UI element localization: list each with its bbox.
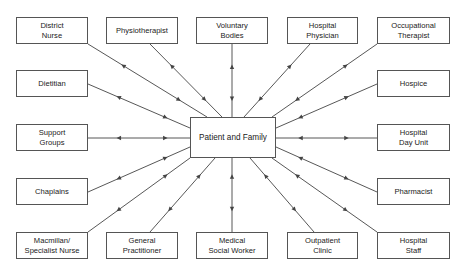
connector-hospice [276,84,377,128]
arrowhead-to-center-occupational-therapist [295,97,300,101]
connector-district-nurse [88,44,207,117]
node-physiotherapist: Physiotherapist [106,17,178,44]
care-network-diagram: Patient and Family District Nurse Physio… [0,0,461,273]
node-voluntary-bodies: Voluntary Bodies [196,17,268,44]
node-chaplains: Chaplains [16,178,88,205]
arrowhead-to-support-groups [117,136,122,140]
arrowhead-to-hospital-day-unit [344,136,349,140]
connector-pharmacist [276,147,377,192]
connector-general-practitioner [150,158,215,232]
arrowhead-to-center-support-groups [163,136,168,140]
arrowhead-to-hospital-staff [343,207,348,211]
connector-dietitian [88,84,190,128]
arrowhead-to-medical-social-worker [230,207,234,212]
connector-physiotherapist [150,44,222,117]
arrowhead-to-center-hospital-staff [295,174,300,178]
node-dietitian: Dietitian [16,70,88,97]
node-pharmacist: Pharmacist [377,178,450,205]
arrowhead-to-macmillan-specialist-nurse [117,207,122,211]
node-occupational-therapist: Occupational Therapist [377,17,450,44]
arrowhead-to-center-medical-social-worker [230,174,234,179]
connector-hospital-physician [244,44,310,117]
arrowhead-to-occupational-therapist [343,64,348,68]
node-macmillan-specialist-nurse: Macmillan/ Specialist Nurse [16,232,88,259]
connector-occupational-therapist [272,44,377,117]
node-general-practitioner: General Practitioner [106,232,178,259]
node-patient-and-family: Patient and Family [190,117,276,158]
connector-outpatient-clinic [250,158,314,232]
node-hospice: Hospice [377,70,450,97]
node-hospital-day-unit: Hospital Day Unit [377,124,450,151]
node-hospital-staff: Hospital Staff [377,232,450,259]
arrowhead-to-center-hospital-day-unit [298,136,303,140]
node-hospital-physician: Hospital Physician [287,17,358,44]
node-medical-social-worker: Medical Social Worker [196,232,268,259]
arrowhead-to-center-voluntary-bodies [230,96,234,101]
arrowhead-to-voluntary-bodies [230,64,234,69]
arrowhead-to-center-macmillan-specialist-nurse [163,174,168,178]
node-support-groups: Support Groups [16,124,88,151]
node-district-nurse: District Nurse [16,17,88,44]
node-outpatient-clinic: Outpatient Clinic [287,232,358,259]
